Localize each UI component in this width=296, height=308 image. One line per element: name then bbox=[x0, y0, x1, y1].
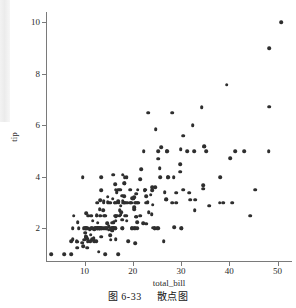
scatter-point bbox=[117, 252, 121, 256]
scatter-point bbox=[109, 238, 113, 242]
scatter-point bbox=[268, 46, 272, 50]
scatter-point bbox=[114, 214, 118, 218]
scatter-point bbox=[164, 197, 168, 201]
scatter-point bbox=[132, 205, 136, 209]
scatter-point bbox=[218, 175, 222, 179]
scatter-point bbox=[154, 127, 158, 131]
scatter-point bbox=[102, 201, 106, 205]
scatter-point bbox=[95, 240, 99, 244]
scatter-point bbox=[81, 175, 85, 179]
scatter-point bbox=[113, 201, 117, 205]
scatter-point bbox=[133, 241, 137, 245]
scatter-point bbox=[144, 194, 148, 198]
x-tick-label: 10 bbox=[80, 266, 89, 276]
scatter-point bbox=[156, 149, 160, 153]
scatter-point bbox=[123, 194, 127, 198]
caption-number: 图 6-33 bbox=[108, 291, 142, 302]
scatter-point bbox=[125, 175, 129, 179]
y-tick-label: 10 bbox=[31, 17, 40, 27]
scatter-point bbox=[179, 148, 183, 152]
scatter-point bbox=[188, 198, 192, 202]
scatter-point bbox=[83, 227, 87, 231]
scatter-point bbox=[170, 111, 174, 115]
x-tick-label: 30 bbox=[177, 266, 186, 276]
scatter-point bbox=[99, 175, 103, 179]
y-axis-spine bbox=[46, 12, 47, 262]
scatter-point bbox=[179, 162, 183, 166]
scatter-point bbox=[123, 181, 127, 185]
y-tick-mark bbox=[42, 228, 46, 229]
scatter-point bbox=[114, 188, 118, 192]
scatter-point bbox=[166, 149, 170, 153]
scatter-point bbox=[139, 177, 143, 181]
y-tick-mark bbox=[42, 22, 46, 23]
scatter-point bbox=[145, 222, 149, 226]
scatter-point bbox=[180, 227, 184, 231]
scatter-point bbox=[77, 227, 81, 231]
scatter-point bbox=[87, 214, 91, 218]
scatter-point bbox=[109, 234, 113, 238]
scatter-point bbox=[114, 238, 118, 242]
scatter-point bbox=[192, 149, 196, 153]
scatter-point bbox=[129, 188, 133, 192]
scatter-point bbox=[121, 227, 125, 231]
scatter-point bbox=[120, 218, 124, 222]
x-tick-label: 20 bbox=[128, 266, 137, 276]
scatter-point bbox=[159, 145, 163, 149]
scatter-point bbox=[76, 246, 80, 250]
scatter-point bbox=[202, 183, 206, 187]
scatter-point bbox=[163, 190, 167, 194]
scatter-point bbox=[178, 170, 182, 174]
scatter-point bbox=[112, 173, 116, 177]
scatter-point bbox=[119, 204, 123, 208]
scatter-point bbox=[181, 188, 185, 192]
scatter-point bbox=[99, 235, 103, 239]
scatter-point bbox=[93, 227, 97, 231]
scatter-point bbox=[205, 149, 209, 153]
scatter-point bbox=[111, 197, 115, 201]
scatter-point bbox=[202, 187, 206, 191]
scatter-point bbox=[144, 188, 148, 192]
scatter-point bbox=[128, 201, 132, 205]
scatter-point bbox=[146, 111, 150, 115]
scatter-point bbox=[188, 191, 192, 195]
scatter-point bbox=[91, 219, 95, 223]
scatter-point bbox=[207, 204, 211, 208]
scatter-point bbox=[118, 208, 122, 212]
y-tick-label: 6 bbox=[36, 120, 41, 130]
y-tick-label: 4 bbox=[36, 172, 41, 182]
scatter-point bbox=[157, 157, 161, 161]
scatter-point bbox=[172, 175, 176, 179]
scatter-point bbox=[49, 252, 53, 256]
scatter-point bbox=[142, 149, 146, 153]
scatter-point bbox=[119, 188, 123, 192]
scatter-point bbox=[114, 219, 118, 223]
scatter-point bbox=[70, 252, 74, 256]
scatter-point bbox=[125, 219, 129, 223]
scatter-point bbox=[75, 240, 79, 244]
scatter-point bbox=[91, 238, 95, 242]
scatter-point bbox=[99, 214, 103, 218]
scatter-point bbox=[113, 183, 117, 187]
scatter-point bbox=[193, 208, 197, 212]
scatter-point bbox=[134, 215, 138, 219]
scatter-point bbox=[95, 201, 99, 205]
figure-container: 246810 1020304050 tip total_bill 图 6-33 … bbox=[0, 0, 296, 308]
scatter-point bbox=[166, 175, 170, 179]
y-tick-mark bbox=[42, 125, 46, 126]
scatter-point bbox=[71, 238, 75, 242]
scatter-point bbox=[147, 210, 151, 214]
scatter-point bbox=[101, 208, 105, 212]
scatter-point bbox=[193, 198, 197, 202]
scatter-point bbox=[233, 149, 237, 153]
scatter-point bbox=[253, 188, 257, 192]
scatter-point bbox=[280, 21, 284, 25]
y-tick-label: 8 bbox=[36, 69, 41, 79]
x-tick-label: 40 bbox=[225, 266, 234, 276]
axes: 246810 1020304050 bbox=[46, 12, 292, 262]
scatter-point bbox=[99, 189, 103, 193]
scatter-point bbox=[86, 237, 90, 241]
scatter-point bbox=[267, 149, 271, 153]
scatter-point bbox=[141, 222, 145, 226]
scatter-point bbox=[124, 214, 128, 218]
